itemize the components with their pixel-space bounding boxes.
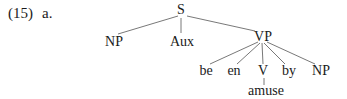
node-v: V xyxy=(258,64,268,78)
node-np-subject: NP xyxy=(105,35,123,49)
node-np-agent: NP xyxy=(312,64,330,78)
node-by: by xyxy=(282,64,296,78)
node-be: be xyxy=(199,64,212,78)
node-aux: Aux xyxy=(170,35,194,49)
node-s: S xyxy=(177,3,185,17)
node-amuse: amuse xyxy=(248,84,284,98)
tree-branches xyxy=(0,0,347,99)
node-vp: VP xyxy=(254,30,272,44)
node-en: en xyxy=(227,64,240,78)
